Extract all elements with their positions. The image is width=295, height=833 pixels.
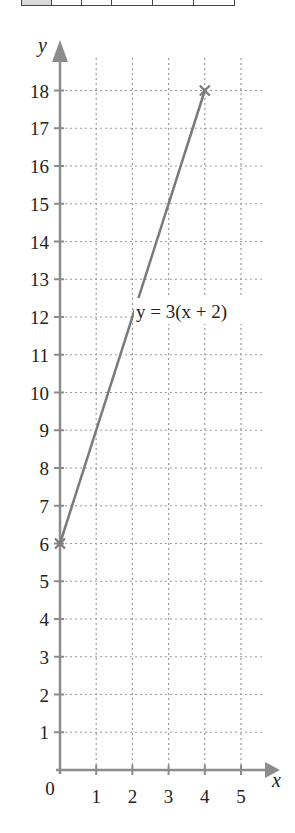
y-tick-label: 12	[30, 307, 49, 328]
y-tick-label: 4	[40, 609, 50, 630]
y-tick-label: 18	[30, 81, 49, 102]
y-tick-label: 11	[31, 345, 49, 366]
y-tick-label: 13	[30, 269, 49, 290]
equation-label: y = 3(x + 2)	[136, 301, 227, 323]
y-tick-label: 3	[40, 647, 50, 668]
x-tick-label: 5	[236, 786, 246, 807]
y-tick-label: 6	[40, 534, 50, 555]
x-tick-label: 1	[91, 786, 101, 807]
y-tick-label: 17	[30, 118, 49, 139]
y-tick-label: 2	[40, 685, 50, 706]
line-chart: 123451234567891011121314151617180xyy = 3…	[0, 0, 295, 833]
y-tick-label: 8	[40, 458, 50, 479]
y-tick-label: 16	[30, 156, 49, 177]
x-tick-label: 2	[128, 786, 138, 807]
y-tick-label: 15	[30, 194, 49, 215]
x-tick-label: 3	[164, 786, 174, 807]
y-tick-label: 1	[40, 722, 50, 743]
y-tick-label: 9	[40, 420, 50, 441]
origin-label: 0	[45, 778, 55, 799]
x-axis-label: x	[271, 769, 281, 791]
x-tick-label: 4	[200, 786, 210, 807]
y-tick-label: 7	[40, 496, 50, 517]
y-tick-label: 5	[40, 571, 50, 592]
y-axis-label: y	[36, 34, 47, 57]
y-axis-arrow-icon	[52, 40, 68, 62]
y-tick-label: 14	[30, 232, 50, 253]
y-tick-label: 10	[30, 383, 49, 404]
